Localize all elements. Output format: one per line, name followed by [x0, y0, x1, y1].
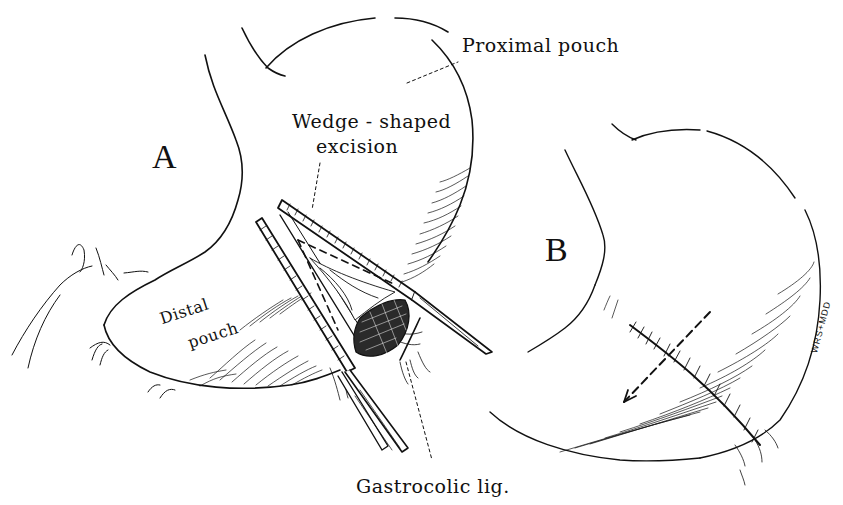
label-gastrocolic-lig: Gastrocolic lig.	[356, 477, 510, 496]
line-art	[0, 0, 843, 505]
label-proximal-pouch: Proximal pouch	[462, 36, 619, 55]
label-wedge-shaped: Wedge - shaped	[292, 112, 451, 131]
panel-letter-a: A	[152, 140, 177, 174]
label-excision: excision	[316, 137, 398, 156]
panel-b-stomach-outline	[490, 124, 820, 461]
dashed-arrow-crossing	[624, 312, 710, 402]
hatching-panel-a-fundus	[402, 168, 470, 282]
panel-a-stomach-outline	[104, 18, 473, 388]
suture-line	[630, 322, 760, 445]
illustration: A B Proximal pouch Wedge - shaped excisi…	[0, 0, 843, 505]
leader-wedge-excision	[312, 163, 320, 210]
omentum-fringe-left	[12, 245, 175, 398]
leader-gastrocolic	[406, 362, 432, 460]
panel-letter-b: B	[545, 233, 568, 267]
leader-proximal-pouch	[407, 62, 458, 83]
